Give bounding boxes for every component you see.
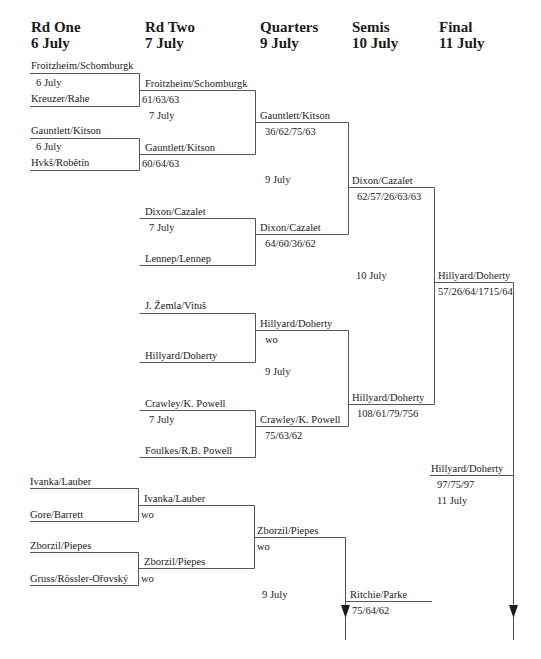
r2-m3-bottom: Lennep/Lennep [145, 253, 211, 265]
qf3-winner: Hillyard/Doherty [260, 318, 332, 330]
qf1-winner: Gauntlett/Kitson [260, 110, 330, 122]
r2-m5-bottom: Foulkes/R.B. Powell [145, 445, 232, 457]
sf1-winner: Dixon/Cazalet [352, 175, 413, 187]
r1-m3-top: Ivanka/Lauber [30, 476, 91, 488]
r2-date: 7 July [149, 110, 174, 122]
final1-winner: Hillyard/Doherty [438, 270, 510, 282]
qf-date-a: 9 July [265, 174, 290, 186]
sf1-score: 62/57/26/63/63 [357, 191, 421, 203]
r2-m3-top: Dixon/Cazalet [145, 206, 206, 218]
qf2-winner: Dixon/Cazalet [260, 222, 321, 234]
qf5-score: wo [257, 541, 270, 553]
r1-m1-date: 6 July [36, 77, 61, 89]
qf2-score: 64/60/36/62 [265, 238, 316, 250]
r2-m7-score: wo [141, 573, 154, 585]
final2-score: 97/75/97 [437, 479, 474, 491]
r1-m4-bottom: Gruss/Rössler-Ořovský [30, 573, 128, 585]
qf3-score: wo [265, 334, 278, 346]
sf2-winner: Hillyard/Doherty [352, 392, 424, 404]
sf-date: 10 July [356, 270, 387, 282]
r2-m6-score: wo [141, 509, 154, 521]
qf1-score: 36/62/75/63 [265, 126, 316, 138]
r1-m1-top: Froitzheim/Schomburgk [31, 60, 133, 72]
r2-m1-winner: Froitzheim/Schomburgk [145, 78, 247, 90]
qf-date-c: 9 July [262, 589, 287, 601]
r2-m3-date: 7 July [149, 222, 174, 234]
r1-m2-date: 6 July [36, 141, 61, 153]
r1-m4-top: Zborzil/Piepes [30, 540, 91, 552]
r2-m2-winner: Gauntlett/Kitson [145, 142, 215, 154]
qf5-winner: Zborzil/Piepes [257, 525, 318, 537]
qf-date-b: 9 July [265, 366, 290, 378]
r1-m2-bottom: Hvkš/Robětín [31, 157, 89, 169]
arrow-down-icon [509, 605, 518, 618]
r1-m3-bottom: Gore/Barrett [30, 509, 83, 521]
sf3-winner: Ritchie/Parke [350, 589, 407, 601]
final2-date: 11 July [437, 495, 467, 507]
r1-m2-top: Gauntlett/Kitson [31, 125, 101, 137]
qf4-score: 75/63/62 [265, 430, 302, 442]
r1-m1-bottom: Kreuzer/Rahe [31, 93, 89, 105]
sf2-score: 108/61/79/756 [357, 408, 418, 420]
final2-winner: Hillyard/Doherty [431, 463, 503, 475]
r2-m2-score: 60/64/63 [142, 158, 179, 170]
r2-m5-top: Crawley/K. Powell [145, 398, 226, 410]
qf4-winner: Crawley/K. Powell [260, 414, 341, 426]
final1-score: 57/26/64/1715/64 [438, 286, 513, 298]
r2-m4-bottom: Hillyard/Doherty [145, 350, 217, 362]
sf3-score: 75/64/62 [352, 605, 389, 617]
r2-m5-date: 7 July [149, 414, 174, 426]
arrow-down-icon [341, 605, 350, 618]
r2-m7-winner: Zborzil/Piepes [144, 556, 205, 568]
r2-m1-score: 61/63/63 [142, 94, 179, 106]
r2-m6-winner: Ivanka/Lauber [144, 493, 205, 505]
r2-m4-top: J. Žemla/Vituš [145, 300, 206, 312]
